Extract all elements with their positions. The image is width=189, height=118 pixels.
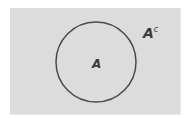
venn-diagram: A Ac — [0, 0, 189, 118]
set-a-label: A — [91, 57, 101, 71]
complement-label: Ac — [142, 25, 159, 41]
